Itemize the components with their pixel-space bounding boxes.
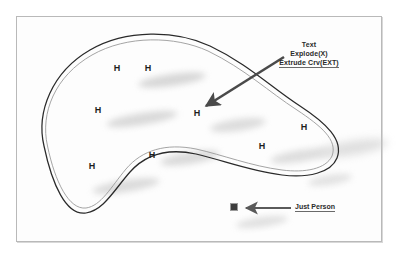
diagram-canvas: Text Explode(X) Extrude Crv(EXT) Just Pe…: [0, 0, 400, 261]
callout-line-text: Text: [272, 40, 346, 49]
callout-line-explode: Explode(X): [272, 49, 346, 58]
h-marker[interactable]: H: [114, 63, 121, 73]
h-marker[interactable]: H: [301, 122, 308, 132]
h-marker[interactable]: H: [89, 161, 96, 171]
person-callout: Just Person: [295, 202, 335, 212]
h-marker[interactable]: H: [95, 105, 102, 115]
h-marker[interactable]: H: [145, 63, 152, 73]
person-callout-label: Just Person: [295, 202, 335, 212]
h-marker[interactable]: H: [149, 150, 156, 160]
h-marker[interactable]: H: [194, 108, 201, 118]
callout-line-extrude: Extrude Crv(EXT): [279, 58, 339, 68]
command-callout: Text Explode(X) Extrude Crv(EXT): [272, 40, 346, 68]
person-block[interactable]: [230, 203, 238, 211]
h-marker[interactable]: H: [259, 141, 266, 151]
shadow-smudges: [91, 69, 388, 230]
